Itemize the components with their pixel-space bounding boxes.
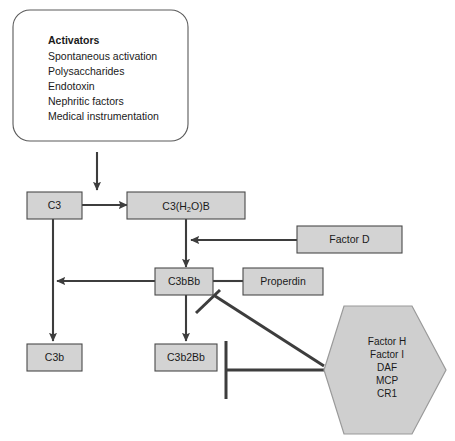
diagram-canvas: Activators Spontaneous activation Polysa… xyxy=(0,0,455,441)
node-factor-d[interactable]: Factor D xyxy=(297,226,402,253)
regulator-item-1: Factor I xyxy=(370,349,404,360)
node-c3b2bb-label: C3b2Bb xyxy=(167,351,205,363)
pathway-diagram: Activators Spontaneous activation Polysa… xyxy=(0,0,455,441)
node-c3h2ob-label-pre: C3(H xyxy=(162,199,187,211)
inhibition-diagonal-stem xyxy=(215,296,324,366)
regulator-item-4: CR1 xyxy=(377,388,397,399)
activators-item-1: Polysaccharides xyxy=(48,65,124,77)
node-properdin[interactable]: Properdin xyxy=(243,268,323,295)
activators-item-4: Medical instrumentation xyxy=(48,110,159,122)
activators-item-3: Nephritic factors xyxy=(48,95,124,107)
activators-heading: Activators xyxy=(48,34,100,46)
node-c3h2ob[interactable]: C3(H2O)B xyxy=(127,192,245,219)
node-c3bbb-label: C3bBb xyxy=(168,275,200,287)
node-properdin-label: Properdin xyxy=(260,275,306,287)
node-c3bbb[interactable]: C3bBb xyxy=(155,268,213,295)
node-c3[interactable]: C3 xyxy=(27,192,82,219)
activators-panel: Activators Spontaneous activation Polysa… xyxy=(13,10,188,141)
node-c3-label: C3 xyxy=(48,199,62,211)
node-c3b[interactable]: C3b xyxy=(27,344,82,371)
node-c3b2bb[interactable]: C3b2Bb xyxy=(155,344,217,371)
node-regulators-hexagon[interactable]: Factor H Factor I DAF MCP CR1 xyxy=(324,306,446,434)
regulator-item-2: DAF xyxy=(377,362,397,373)
inhibition-horizontal xyxy=(226,341,324,399)
node-c3b-label: C3b xyxy=(45,351,64,363)
activators-item-2: Endotoxin xyxy=(48,80,95,92)
activators-item-0: Spontaneous activation xyxy=(48,50,157,62)
node-c3h2ob-label-post: O)B xyxy=(191,199,210,211)
regulator-item-3: MCP xyxy=(376,375,399,386)
node-factor-d-label: Factor D xyxy=(329,233,370,245)
regulator-item-0: Factor H xyxy=(368,336,406,347)
